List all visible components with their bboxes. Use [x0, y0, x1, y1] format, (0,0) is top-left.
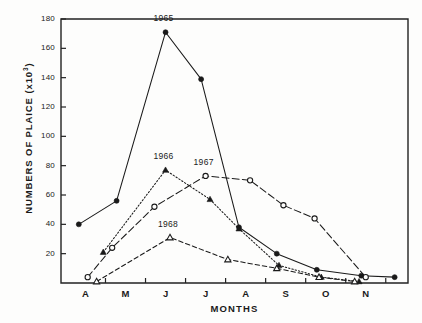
- plot-frame: [61, 19, 408, 283]
- series-label-1966: 1966: [154, 151, 174, 161]
- series-1968: [93, 234, 357, 284]
- x-tick-label-june: J: [155, 288, 177, 299]
- y-tick-label: 100: [25, 131, 55, 140]
- y-tick-label: 140: [25, 73, 55, 82]
- y-tick-label: 60: [25, 190, 55, 199]
- series-label-1967: 1967: [194, 157, 214, 167]
- y-tick-label: 80: [25, 161, 55, 170]
- x-tick-label-july: J: [195, 288, 217, 299]
- x-tick-label-may: M: [115, 288, 137, 299]
- figure-plaice-numbers: NUMBERS OF PLAICE (x103) MONTHS 20406080…: [0, 0, 422, 323]
- y-tick-label: 180: [25, 14, 55, 23]
- series-1965: [76, 30, 397, 280]
- y-tick-label: 160: [25, 43, 55, 52]
- x-tick-label-april: A: [74, 288, 96, 299]
- y-tick-label: 120: [25, 102, 55, 111]
- x-tick-label-october: O: [315, 288, 337, 299]
- series-1966: [100, 167, 362, 284]
- series-label-1965: 1965: [154, 13, 174, 23]
- y-tick-label: 40: [25, 219, 55, 228]
- x-tick-label-august: A: [235, 288, 257, 299]
- x-tick-label-november: N: [355, 288, 377, 299]
- x-tick-label-september: S: [275, 288, 297, 299]
- y-tick-label: 20: [25, 249, 55, 258]
- data-series-group: [76, 30, 397, 284]
- series-label-1968: 1968: [158, 219, 178, 229]
- series-1967: [85, 173, 368, 279]
